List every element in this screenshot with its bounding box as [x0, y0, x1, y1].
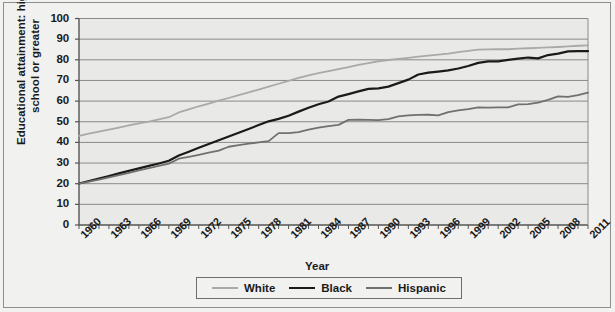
y-tick-label: 70 — [39, 73, 69, 85]
legend-label: Hispanic — [398, 282, 446, 294]
y-tick-label: 50 — [39, 115, 69, 127]
legend-item-hispanic[interactable]: Hispanic — [366, 282, 446, 294]
y-tick-label: 80 — [39, 53, 69, 65]
y-tick-label: 10 — [39, 197, 69, 209]
legend-label: Black — [321, 282, 352, 294]
legend-item-black[interactable]: Black — [289, 282, 352, 294]
y-tick-label: 60 — [39, 94, 69, 106]
chart-legend: WhiteBlackHispanic — [196, 277, 462, 299]
y-tick-label: 90 — [39, 32, 69, 44]
y-tick-label: 100 — [39, 12, 69, 24]
x-axis-title: Year — [305, 260, 329, 272]
legend-swatch-black-icon — [289, 287, 315, 289]
y-tick-label: 20 — [39, 177, 69, 189]
legend-swatch-hispanic-icon — [366, 287, 392, 289]
legend-swatch-white-icon — [212, 287, 238, 289]
y-axis-title: Educational attainment: high school or g… — [14, 0, 42, 146]
chart-figure: Educational attainment: high school or g… — [0, 0, 615, 312]
y-tick-label: 30 — [39, 156, 69, 168]
y-tick-label: 40 — [39, 135, 69, 147]
y-tick-label: 0 — [39, 218, 69, 230]
legend-item-white[interactable]: White — [212, 282, 275, 294]
legend-label: White — [244, 282, 275, 294]
